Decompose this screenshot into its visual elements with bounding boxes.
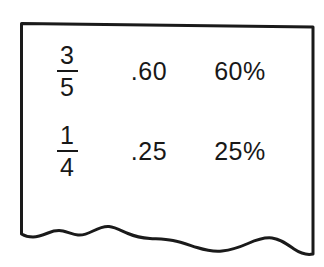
fraction-denominator: 5 xyxy=(60,74,74,100)
fraction-numerator: 1 xyxy=(60,122,74,148)
fraction-bar xyxy=(57,70,78,72)
fraction-cell: 1 4 xyxy=(26,122,108,180)
decimal-value: .60 xyxy=(131,59,167,84)
fraction-denominator: 4 xyxy=(60,154,74,180)
percent-value: 60% xyxy=(214,59,266,84)
percent-value: 25% xyxy=(214,139,266,164)
decimal-cell: .60 xyxy=(108,59,190,84)
fraction-cell: 3 5 xyxy=(26,42,108,100)
table-row: 1 4 .25 25% xyxy=(26,120,296,182)
fraction-decimal-percent-table: 3 5 .60 60% 1 4 .25 xyxy=(0,0,324,267)
fraction: 3 5 xyxy=(57,42,78,100)
decimal-value: .25 xyxy=(131,139,167,164)
table-row: 3 5 .60 60% xyxy=(26,40,296,102)
percent-cell: 60% xyxy=(190,59,290,84)
torn-paper-figure: 3 5 .60 60% 1 4 .25 xyxy=(0,0,324,267)
fraction: 1 4 xyxy=(57,122,78,180)
percent-cell: 25% xyxy=(190,139,290,164)
decimal-cell: .25 xyxy=(108,139,190,164)
fraction-bar xyxy=(57,150,78,152)
fraction-numerator: 3 xyxy=(60,42,74,68)
